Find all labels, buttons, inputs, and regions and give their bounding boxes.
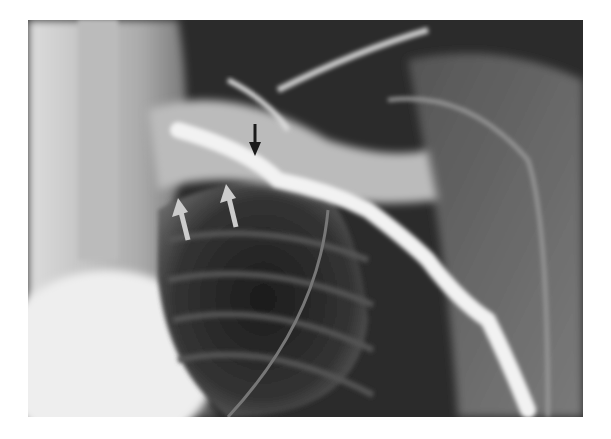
radiograph-svg xyxy=(28,20,583,417)
radiograph-image xyxy=(28,20,583,417)
spine xyxy=(78,20,118,260)
